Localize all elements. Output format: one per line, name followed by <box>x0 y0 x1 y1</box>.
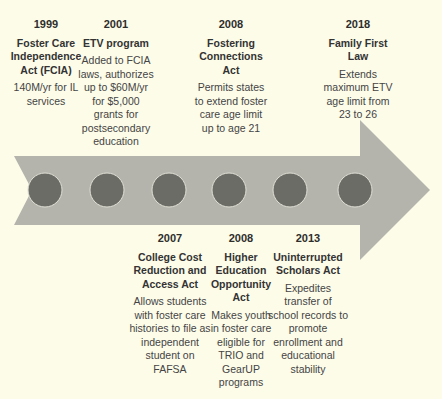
event-year: 2018 <box>320 18 396 32</box>
event-title: Uninterrupted Scholars Act <box>268 251 348 278</box>
event-description: Allows students with foster care histori… <box>129 295 211 376</box>
event-title: Fostering Connections Act <box>193 37 269 78</box>
event-year: 2001 <box>78 18 154 32</box>
event-2008-heoa: 2008 Higher Education Opportunity Act Ma… <box>210 232 272 390</box>
event-description: Expedites transfer of school records to … <box>268 282 348 377</box>
milestone-marker-2001 <box>90 173 124 207</box>
event-2001: 2001 ETV program Added to FCIA laws, aut… <box>78 18 154 149</box>
event-title: Family First Law <box>320 37 396 64</box>
event-2013: 2013 Uninterrupted Scholars Act Expedite… <box>268 232 348 376</box>
event-description: Added to FCIA laws, authorizes up to $60… <box>78 54 154 149</box>
milestone-marker-1999 <box>28 173 62 207</box>
event-2018: 2018 Family First Law Extends maximum ET… <box>320 18 396 122</box>
event-year: 2013 <box>268 232 348 246</box>
event-year: 2008 <box>193 18 269 32</box>
milestone-marker-2008 <box>212 173 246 207</box>
milestone-marker-2013 <box>273 173 307 207</box>
milestone-marker-2007 <box>152 173 186 207</box>
event-title: ETV program <box>78 37 154 51</box>
event-description: Permits states to extend foster care age… <box>193 81 269 135</box>
event-description: Makes youth in foster care eligible for … <box>210 309 272 390</box>
event-1999: 1999 Foster Care Independence Act (FCIA)… <box>8 18 84 108</box>
event-title: Higher Education Opportunity Act <box>210 251 272 305</box>
event-year: 1999 <box>8 18 84 32</box>
event-year: 2007 <box>129 232 211 246</box>
event-title: Foster Care Independence Act (FCIA) <box>8 37 84 78</box>
event-year: 2008 <box>210 232 272 246</box>
event-title: College Cost Reduction and Access Act <box>129 251 211 292</box>
event-2007: 2007 College Cost Reduction and Access A… <box>129 232 211 376</box>
event-2008-fostering: 2008 Fostering Connections Act Permits s… <box>193 18 269 135</box>
event-description: Extends maximum ETV age limit from 23 to… <box>320 68 396 122</box>
milestone-marker-2018 <box>338 173 372 207</box>
event-description: 140M/yr for IL services <box>8 81 84 108</box>
